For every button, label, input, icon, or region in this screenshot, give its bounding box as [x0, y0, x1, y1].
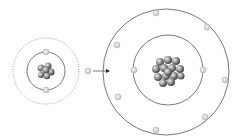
atom-diagram [0, 0, 240, 140]
electron [43, 87, 49, 93]
electron [43, 49, 49, 55]
small-nucleus [38, 63, 55, 80]
large-atom [103, 9, 229, 135]
ejected-electron [85, 68, 91, 74]
small-atom [13, 38, 79, 104]
large-nucleus [152, 56, 185, 87]
arrow-icon [93, 69, 110, 73]
